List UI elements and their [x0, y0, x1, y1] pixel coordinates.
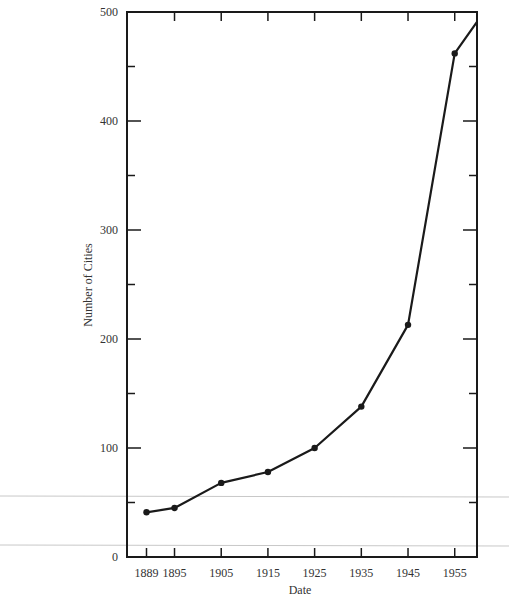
x-tick-label: 1955: [443, 566, 467, 580]
axis-ticks: [127, 12, 477, 557]
x-tick-label: 1889: [135, 566, 159, 580]
line-chart: 18891895190519151925193519451955 0100200…: [0, 0, 509, 601]
x-tick-label: 1905: [209, 566, 233, 580]
artifact-line: [0, 545, 509, 546]
plot-border: [127, 12, 477, 557]
y-tick-label: 300: [100, 223, 118, 237]
y-axis-tick-labels: 0100200300400500: [100, 5, 118, 564]
data-point-marker: [171, 505, 177, 511]
x-tick-label: 1915: [256, 566, 280, 580]
y-tick-label: 0: [112, 550, 118, 564]
data-point-marker: [218, 480, 224, 486]
scan-artifact-lines: [0, 496, 509, 546]
y-tick-label: 500: [100, 5, 118, 19]
y-axis-title: Number of Cities: [81, 243, 95, 327]
plot-frame: [127, 12, 477, 557]
data-point-marker: [405, 322, 411, 328]
y-tick-label: 200: [100, 332, 118, 346]
x-tick-label: 1895: [163, 566, 187, 580]
x-axis-title: Date: [289, 583, 312, 597]
artifact-line: [0, 496, 509, 497]
x-tick-label: 1925: [303, 566, 327, 580]
data-point-marker: [265, 469, 271, 475]
data-point-marker: [143, 509, 149, 515]
data-point-marker: [358, 403, 364, 409]
x-tick-label: 1935: [349, 566, 373, 580]
data-series-line: [143, 22, 477, 516]
x-tick-label: 1945: [396, 566, 420, 580]
y-tick-label: 100: [100, 441, 118, 455]
x-axis-tick-labels: 18891895190519151925193519451955: [135, 566, 467, 580]
data-point-marker: [311, 445, 317, 451]
y-tick-label: 400: [100, 114, 118, 128]
data-point-marker: [452, 50, 458, 56]
series-line: [147, 22, 478, 513]
